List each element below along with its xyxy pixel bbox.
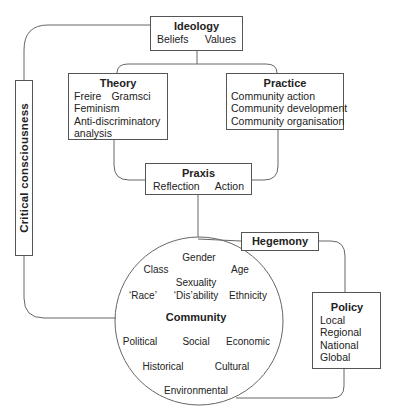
connector-branch-to-practice bbox=[197, 64, 277, 73]
policy-title: Policy bbox=[320, 301, 374, 314]
policy-item-regional: Regional bbox=[320, 326, 374, 339]
praxis-box: Praxis Reflection Action bbox=[145, 163, 252, 195]
theory-title: Theory bbox=[74, 77, 162, 90]
theory-item-gramsci: Gramsci bbox=[111, 90, 150, 103]
connector-theory-praxis bbox=[114, 140, 145, 180]
community-context-economic: Economic bbox=[226, 336, 270, 348]
community-context-environmental: Environmental bbox=[164, 385, 228, 397]
critical-consciousness-box: Critical consciousness bbox=[15, 80, 33, 256]
community-factor-disability: ‘Dis’ability bbox=[174, 290, 218, 302]
community-factor-gender: Gender bbox=[182, 252, 215, 264]
practice-title: Practice bbox=[231, 77, 339, 90]
policy-item-local: Local bbox=[320, 314, 374, 327]
policy-item-global: Global bbox=[320, 351, 374, 364]
practice-item-community-development: Community development bbox=[231, 102, 339, 115]
community-context-historical: Historical bbox=[142, 361, 183, 373]
hegemony-title: Hegemony bbox=[242, 235, 318, 248]
ideology-title: Ideology bbox=[157, 20, 236, 33]
theory-thinkers: Freire Gramsci bbox=[74, 90, 162, 103]
connector-practice-praxis bbox=[252, 130, 278, 180]
practice-box: Practice Community action Community deve… bbox=[226, 73, 344, 130]
practice-item-community-organisation: Community organisation bbox=[231, 115, 339, 128]
community-factor-class: Class bbox=[143, 264, 168, 276]
practice-item-community-action: Community action bbox=[231, 90, 339, 103]
community-factor-race: ‘Race’ bbox=[129, 290, 157, 302]
community-context-social: Social bbox=[182, 336, 209, 348]
community-context-political: Political bbox=[123, 336, 157, 348]
ideology-items: Beliefs Values bbox=[157, 33, 236, 46]
community-factor-ethnicity: Ethnicity bbox=[229, 290, 267, 302]
theory-item-feminism: Feminism bbox=[74, 102, 162, 115]
praxis-title: Praxis bbox=[153, 167, 244, 180]
policy-item-national: National bbox=[320, 339, 374, 352]
connector-ideology-critical bbox=[24, 25, 150, 80]
ideology-item-values: Values bbox=[205, 33, 236, 46]
praxis-items: Reflection Action bbox=[153, 180, 244, 193]
community-factor-sexuality: Sexuality bbox=[176, 277, 217, 289]
community-context-cultural: Cultural bbox=[215, 361, 249, 373]
connector-branch-to-theory bbox=[117, 64, 197, 73]
praxis-item-action: Action bbox=[215, 180, 244, 193]
theory-item-analysis: analysis bbox=[74, 127, 162, 140]
community-factor-age: Age bbox=[231, 264, 249, 276]
hegemony-box: Hegemony bbox=[241, 232, 319, 251]
ideology-box: Ideology Beliefs Values bbox=[150, 16, 243, 51]
connector-hegemony-policy bbox=[319, 241, 345, 292]
policy-box: Policy Local Regional National Global bbox=[312, 292, 381, 369]
theory-item-anti-discriminatory: Anti-discriminatory bbox=[74, 115, 162, 128]
praxis-item-reflection: Reflection bbox=[153, 180, 200, 193]
connector-policy-community bbox=[236, 369, 344, 398]
theory-box: Theory Freire Gramsci Feminism Anti-disc… bbox=[68, 73, 168, 140]
critical-consciousness-label: Critical consciousness bbox=[18, 103, 31, 233]
ideology-item-beliefs: Beliefs bbox=[157, 33, 189, 46]
theory-item-freire: Freire bbox=[74, 90, 101, 103]
connector-critical-community bbox=[24, 256, 116, 318]
community-title: Community bbox=[166, 311, 227, 323]
